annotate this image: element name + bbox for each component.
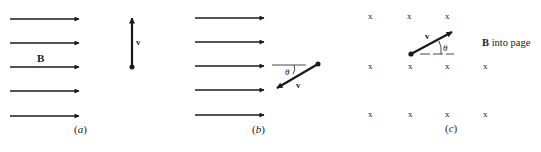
x-mark-icon: x (445, 109, 450, 119)
panel-c: x x x x x x x x x x x v θ B into page (c… (368, 11, 531, 135)
field-label-b: B (37, 52, 45, 64)
charge-dot-icon (408, 51, 413, 56)
angle-arc-icon (439, 41, 441, 54)
field-direction-label: B into page (482, 37, 531, 48)
velocity-label: v (296, 80, 301, 90)
x-mark-icon: x (368, 61, 373, 71)
caption-c: (c) (445, 122, 458, 135)
velocity-vector-a (130, 18, 135, 70)
panel-b: θ v (b) (195, 18, 321, 136)
x-mark-icon: x (407, 11, 412, 21)
angle-arc-icon (293, 65, 295, 74)
field-into-page-grid: x x x x x x x x x x x (368, 11, 488, 119)
x-mark-icon: x (445, 61, 450, 71)
charge-dot-icon (316, 62, 321, 67)
angle-label: θ (443, 43, 448, 53)
x-mark-icon: x (483, 61, 488, 71)
magnetic-field-diagram: B v (a) θ v (b) x x x x (0, 0, 541, 152)
x-mark-icon: x (408, 61, 413, 71)
angle-label: θ (285, 67, 290, 77)
charge-dot-icon (130, 65, 135, 70)
field-lines-a (10, 19, 79, 116)
x-mark-icon: x (408, 109, 413, 119)
caption-a: (a) (74, 123, 87, 136)
x-mark-icon: x (368, 11, 373, 21)
panel-a: B v (a) (10, 18, 141, 136)
x-mark-icon: x (368, 109, 373, 119)
velocity-label: v (136, 37, 141, 47)
x-mark-icon: x (445, 11, 450, 21)
field-lines-b (195, 18, 264, 115)
caption-b: (b) (252, 123, 265, 136)
velocity-label: v (425, 31, 430, 41)
x-mark-icon: x (483, 109, 488, 119)
